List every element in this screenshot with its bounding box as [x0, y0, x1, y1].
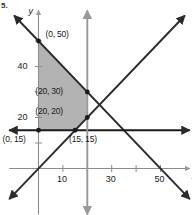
figure-number: 5. [1, 1, 8, 10]
point-label-2: (20, 20) [35, 106, 63, 116]
point-label-0: (0, 50) [46, 29, 69, 39]
x-tick-label-10: 10 [57, 174, 67, 184]
point-label-1: (20, 30) [35, 86, 63, 96]
y-tick-label-20: 20 [18, 112, 28, 122]
point-label-4: (0, 15) [3, 134, 26, 144]
x-tick-label-30: 30 [106, 174, 116, 184]
figure-container: 5. x y (0, 50)(20, 30)(20, 20)(15, 15)(0… [0, 0, 192, 215]
y-axis-label: y [29, 6, 34, 16]
y-tick-label-40: 40 [18, 61, 28, 71]
point-label-3: (15, 15) [69, 134, 97, 144]
x-tick-label-50: 50 [155, 174, 165, 184]
